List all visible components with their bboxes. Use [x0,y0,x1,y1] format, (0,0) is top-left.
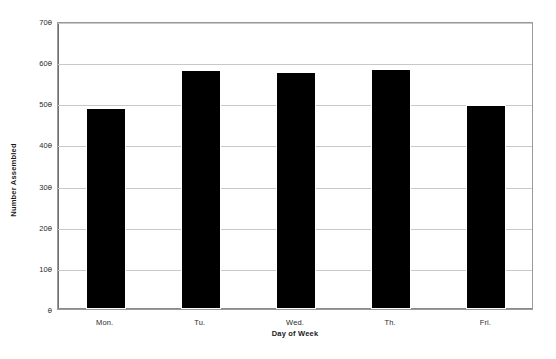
bar-slot [439,23,534,309]
y-tick-mark [48,22,52,23]
y-tick-mark [48,145,52,146]
y-tick-mark [48,228,52,229]
x-tick-label: Fri. [480,318,491,327]
y-tick-mark [48,269,52,270]
y-tick-label: 700 [10,18,52,27]
bar-slot [344,23,439,309]
bar [466,105,506,309]
plot-area [57,22,533,310]
x-tick-label: Wed. [286,318,304,327]
y-tick-label: 500 [10,100,52,109]
bar-slot [248,23,343,309]
bar [371,69,411,309]
y-tick-label: 0 [10,306,52,315]
bar [86,108,126,309]
y-tick-label: 100 [10,264,52,273]
y-tick-mark [48,104,52,105]
y-tick-mark [48,310,52,311]
bar [276,72,316,309]
x-tick-label: Tu. [194,318,205,327]
y-tick-label: 600 [10,59,52,68]
x-tick-label: Th. [385,318,396,327]
y-axis-title: Number Assembled [9,143,18,216]
bar-slot [153,23,248,309]
x-tick-label: Mon. [96,318,113,327]
bars-layer [58,23,532,309]
y-tick-mark [48,187,52,188]
bar [181,70,221,309]
bar-slot [58,23,153,309]
bar-chart: 0100200300400500600700 Number Assembled … [0,0,556,359]
y-tick-label: 200 [10,223,52,232]
y-tick-mark [48,63,52,64]
x-axis-title: Day of Week [57,329,533,338]
